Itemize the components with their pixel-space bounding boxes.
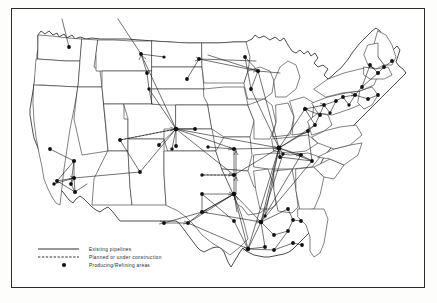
state-al (274, 169, 298, 213)
state-ca (33, 85, 78, 205)
state-ks (176, 105, 212, 129)
state-az (92, 151, 132, 205)
state-wy (102, 71, 152, 104)
state-mi (274, 61, 300, 97)
map-frame: Existing pipelines Planned or under cons… (11, 8, 425, 288)
state-ia (204, 87, 248, 105)
state-wa (38, 35, 82, 61)
figure-container: Existing pipelines Planned or under cons… (0, 0, 437, 303)
state-mn (202, 42, 250, 83)
legend-label-existing: Existing pipelines (89, 247, 132, 252)
legend-label-producing: Producing/Refining areas (89, 263, 150, 268)
state-nm (128, 139, 166, 205)
state-or (34, 59, 80, 87)
state-mt (96, 40, 152, 71)
state-ga (296, 167, 324, 211)
legend-label-planned: Planned or under construction (89, 255, 162, 260)
legend: Existing pipelines Planned or under cons… (38, 247, 162, 268)
state-nd (152, 41, 202, 67)
state-mo (208, 105, 254, 137)
pipeline-map: Existing pipelines Planned or under cons… (12, 9, 424, 287)
state-fl (298, 209, 328, 257)
legend-dot-symbol (62, 263, 66, 267)
state-ne (152, 89, 208, 105)
state-ut (104, 104, 128, 151)
state-sd (152, 67, 204, 89)
